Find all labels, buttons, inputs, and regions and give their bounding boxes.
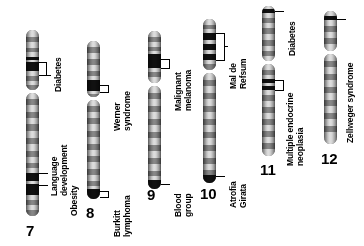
ideogram-figure: Diabetes Language development Obesity 7 [0,0,364,246]
label-chromosome-7-diabetes: Diabetes [54,57,64,92]
label-chromosome-7-obesity: Obesity [70,186,80,216]
chromosome-10-p-arm [203,19,216,70]
label-chromosome-9-malignant-melanoma: Malignant melanoma [174,70,193,111]
chromosome-8-body [87,41,100,199]
chromosome-11-body [262,6,275,156]
label-chromosome-10-mal-de-refsum: Mal de Refsum [229,58,248,89]
chromosome-7-body [26,30,39,216]
label-chromosome-11-diabetes: Diabetes [288,21,298,56]
chromosome-7-p-arm [26,30,39,90]
label-chromosome-8-burkitt-lymphoma: Burkitt lymphoma [113,195,132,237]
chromosome-12-body [324,11,337,144]
chromosome-9-q-arm [148,86,161,189]
chromosome-number-7: 7 [26,222,34,239]
chromosome-number-8: 8 [86,204,94,221]
chromosome-7-q-arm [26,93,39,216]
chromosome-11-p-arm [262,6,275,61]
chromosome-number-12: 12 [321,150,338,167]
chromosome-number-9: 9 [147,186,155,203]
chromosome-12-p-arm [324,11,337,51]
label-chromosome-11-multiple-endocrine-neoplasia: Multiple endocrine neoplasia [286,93,305,166]
label-chromosome-7-language-development: Language development [50,145,69,196]
chromosome-9-body [148,31,161,189]
chromosome-11-q-arm [262,64,275,156]
chromosome-10-q-arm [203,73,216,183]
label-chromosome-9-blood-group: Blood group [174,193,193,217]
label-chromosome-10-atrofia-girata: Atrofia Girata [229,181,248,208]
chromosome-8-q-arm [87,100,100,199]
chromosome-10-body [203,19,216,183]
chromosome-9-p-arm [148,31,161,83]
label-chromosome-8-werner-syndrome: Werner syndrome [113,91,132,131]
chromosome-number-11: 11 [260,161,276,178]
label-chromosome-12-zellweger-syndrome: Zellweger syndrome [346,63,356,143]
chromosome-12-q-arm [324,54,337,144]
chromosome-8-p-arm [87,41,100,97]
chromosome-number-10: 10 [200,185,217,202]
